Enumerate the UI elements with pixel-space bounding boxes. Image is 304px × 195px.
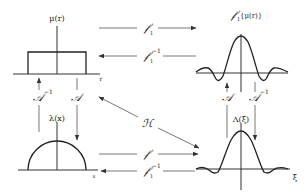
arrow-right-down: 𝒜 −1 — [249, 82, 269, 140]
svg-text:1: 1 — [150, 173, 153, 179]
sinc-curve — [196, 36, 288, 80]
arrow-right-up: 𝒜 — [222, 83, 236, 138]
panel-bottom-right: Λ(ξ) ξ — [196, 115, 298, 190]
svg-text:−1: −1 — [44, 88, 53, 95]
arrow-top-forward: 𝒻 1 — [99, 21, 196, 36]
operator-h: ℋ — [142, 117, 155, 130]
svg-text:1: 1 — [150, 30, 153, 36]
arrow-left-down: 𝒜 — [71, 78, 85, 140]
svg-text:1: 1 — [150, 58, 153, 64]
operator-a-left: 𝒜 — [71, 91, 85, 104]
panel-top-left: μ(r) r — [13, 14, 103, 82]
arrow-bottom-forward: 𝒻 — [99, 147, 198, 160]
fourier-mu-label: 𝒻 1 {μ(r)} — [230, 8, 262, 22]
svg-text:{μ(r)}: {μ(r)} — [240, 12, 262, 20]
operator-f: 𝒻 — [143, 147, 154, 160]
svg-text:−1: −1 — [152, 47, 161, 54]
panel-top-right: 𝒻 1 {μ(r)} — [196, 8, 288, 92]
Lambda-label: Λ(ξ) — [232, 115, 249, 124]
r-axis-label: r — [100, 75, 103, 82]
xi-axis-label: ξ — [293, 173, 298, 182]
lambda-label: λ(x) — [49, 114, 65, 123]
arrow-top-inverse: 𝒻 1 −1 — [99, 47, 196, 64]
arrow-diagonal-h: ℋ — [99, 97, 199, 148]
svg-text:−1: −1 — [260, 88, 269, 95]
transform-diagram: μ(r) r 𝒻 1 {μ(r)} λ(x) x Λ(ξ) ξ 𝒻 1 — [0, 0, 304, 195]
arrow-left-up: 𝒜 −1 — [33, 78, 53, 132]
operator-a-right: 𝒜 — [222, 91, 236, 104]
panel-bottom-left: λ(x) x — [18, 114, 98, 179]
svg-text:−1: −1 — [152, 162, 161, 169]
mu-label: μ(r) — [49, 14, 64, 23]
x-axis-label: x — [93, 173, 96, 179]
arrow-bottom-inverse: 𝒻 1 −1 — [101, 162, 195, 179]
jinc-curve — [196, 131, 288, 173]
